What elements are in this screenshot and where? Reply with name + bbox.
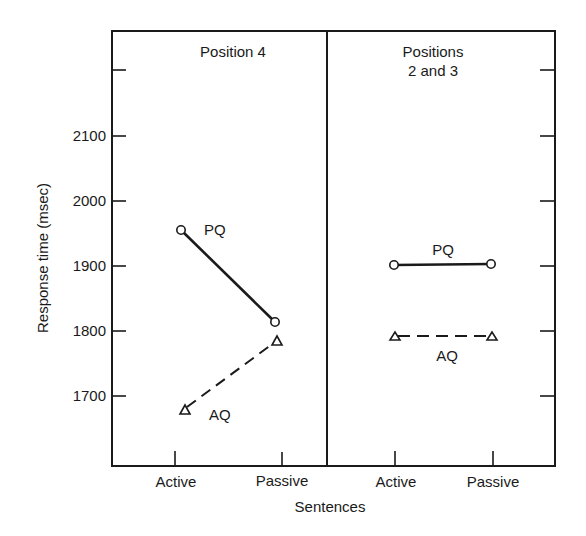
left-pq-passive-marker-circle-icon	[271, 318, 279, 326]
y-tick-2000: 2000	[73, 192, 106, 209]
right-pq-active-marker-circle-icon	[390, 261, 398, 269]
y-axis-label: Response time (msec)	[34, 183, 51, 333]
x-tick-right-passive: Passive	[467, 473, 520, 490]
left-pq-active-marker-circle-icon	[177, 226, 185, 234]
y-tick-2100: 2100	[73, 127, 106, 144]
x-tick-labels: Active Passive Active Passive	[156, 472, 520, 490]
plot-frame	[112, 31, 555, 466]
x-axis-label: Sentences	[295, 498, 366, 515]
x-tick-left-passive: Passive	[256, 472, 309, 489]
left-aq-label: AQ	[209, 406, 231, 423]
y-ticks-right	[540, 70, 555, 396]
x-tick-right-active: Active	[376, 473, 417, 490]
y-tick-1700: 1700	[73, 387, 106, 404]
y-ticks-left	[112, 70, 126, 396]
right-pq-label: PQ	[432, 241, 454, 258]
panel-right-title-line1: Positions	[403, 43, 464, 60]
plot-border	[112, 31, 555, 466]
chart: 2100 2000 1900 1800 1700 Response time (…	[0, 0, 586, 536]
right-pq-passive-marker-circle-icon	[487, 260, 495, 268]
right-pq-line	[394, 264, 491, 265]
y-tick-1800: 1800	[73, 322, 106, 339]
panel-left-title: Position 4	[200, 43, 266, 60]
right-panel-series	[390, 260, 497, 340]
panel-right-title-line2: 2 and 3	[408, 62, 458, 79]
y-tick-labels: 2100 2000 1900 1800 1700	[73, 127, 106, 404]
left-aq-line	[187, 342, 275, 407]
x-ticks	[175, 451, 493, 466]
left-aq-passive-marker-triangle-icon	[272, 336, 282, 345]
right-aq-passive-marker-triangle-icon	[487, 332, 497, 340]
x-tick-left-active: Active	[156, 473, 197, 490]
left-pq-label: PQ	[204, 221, 226, 238]
chart-svg: 2100 2000 1900 1800 1700 Response time (…	[0, 0, 586, 536]
right-aq-label: AQ	[436, 347, 458, 364]
left-panel-series	[177, 226, 282, 414]
y-tick-1900: 1900	[73, 257, 106, 274]
left-pq-line	[181, 230, 275, 322]
